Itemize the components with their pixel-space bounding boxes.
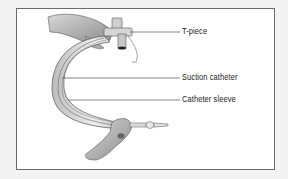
catheter-sleeve-icon	[52, 36, 138, 128]
label-suction-catheter: Suction catheter	[182, 72, 237, 82]
label-catheter-sleeve: Catheter sleeve	[182, 94, 236, 104]
suction-catheter-illustration	[0, 0, 288, 179]
label-t-piece: T-piece	[182, 26, 207, 36]
connector-icon	[130, 122, 168, 129]
